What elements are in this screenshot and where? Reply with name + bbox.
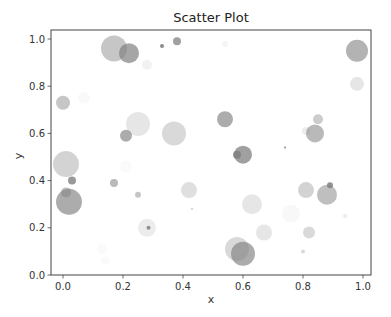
- y-tick-label: 0.2: [29, 222, 45, 233]
- data-point: [282, 205, 300, 223]
- y-tick-label: 1.0: [29, 34, 45, 45]
- x-axis-label: x: [208, 293, 215, 306]
- y-axis-label: y: [12, 152, 25, 159]
- data-point: [147, 226, 151, 230]
- data-point: [162, 121, 186, 145]
- data-point: [350, 77, 364, 91]
- y-tick-label: 0.8: [29, 81, 45, 92]
- data-point: [160, 44, 164, 48]
- data-point: [56, 189, 82, 215]
- data-point: [97, 244, 107, 254]
- data-point: [343, 214, 347, 218]
- data-point: [242, 194, 262, 214]
- x-tick-label: 0.4: [175, 281, 191, 292]
- chart-title: Scatter Plot: [173, 10, 249, 25]
- data-point: [302, 127, 310, 135]
- data-point: [231, 242, 255, 266]
- data-point: [233, 151, 241, 159]
- data-point: [142, 60, 152, 70]
- data-point: [68, 177, 76, 185]
- data-point: [217, 111, 233, 127]
- x-tick-label: 0.2: [115, 281, 131, 292]
- data-point: [78, 92, 90, 104]
- data-point: [346, 40, 368, 62]
- data-point: [298, 182, 314, 198]
- data-point: [284, 147, 286, 149]
- x-tick-label: 1.0: [355, 281, 371, 292]
- data-point: [135, 192, 141, 198]
- data-point: [173, 37, 181, 45]
- data-point: [101, 257, 109, 265]
- data-point: [119, 43, 139, 63]
- data-point: [256, 225, 272, 241]
- x-tick-label: 0.0: [55, 281, 71, 292]
- scatter-chart: Scatter Plot 0.00.20.40.60.81.0 0.00.20.…: [0, 0, 391, 317]
- y-tick-label: 0.4: [29, 175, 45, 186]
- data-point: [110, 179, 118, 187]
- data-point: [301, 249, 305, 253]
- y-tick-label: 0.0: [29, 270, 45, 281]
- data-point: [222, 41, 228, 47]
- data-point: [327, 182, 333, 188]
- data-point: [120, 160, 132, 172]
- data-point: [313, 114, 323, 124]
- x-tick-label: 0.8: [295, 281, 311, 292]
- data-point: [56, 96, 70, 110]
- y-tick-label: 0.6: [29, 128, 45, 139]
- data-point: [120, 130, 132, 142]
- data-point: [181, 182, 197, 198]
- data-point: [303, 227, 315, 239]
- x-tick-label: 0.6: [235, 281, 251, 292]
- data-point: [317, 185, 337, 205]
- data-point: [191, 208, 193, 210]
- data-point: [53, 151, 79, 177]
